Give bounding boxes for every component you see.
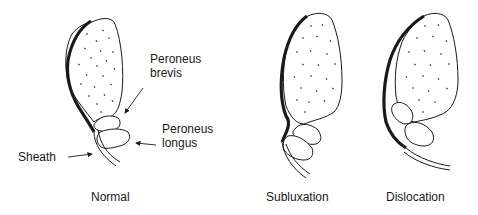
label-sheath: Sheath — [18, 150, 56, 164]
peroneus-longus-tendon — [97, 129, 130, 148]
caption-normal: Normal — [91, 190, 130, 204]
fibula-bone — [283, 13, 342, 124]
fibula-bone — [66, 19, 123, 123]
arrow-peroneus-brevis — [125, 88, 143, 113]
caption-dislocation: Dislocation — [386, 190, 445, 204]
panel-normal — [66, 19, 156, 167]
peroneus-longus-tendon — [405, 122, 434, 146]
label-peroneus-longus: Peroneus longus — [162, 122, 213, 150]
arrow-sheath — [68, 154, 92, 157]
panel-subluxation — [281, 13, 342, 178]
peroneal-tendon-diagram — [0, 0, 478, 215]
caption-subluxation: Subluxation — [266, 190, 329, 204]
panel-dislocation — [384, 13, 458, 170]
sheath — [406, 148, 450, 166]
label-peroneus-brevis: Peroneus brevis — [150, 52, 201, 80]
arrow-peroneus-longus — [136, 143, 156, 145]
